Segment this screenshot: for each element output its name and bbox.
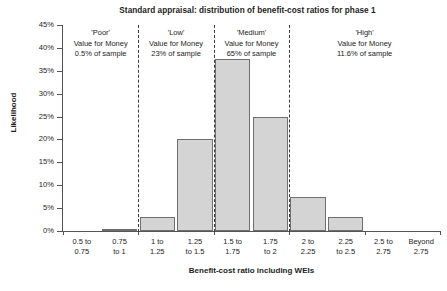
bar [328,217,363,231]
region-annotation-line: Value for Money [63,39,138,50]
y-axis-tick-label: 45% [39,20,54,29]
region-annotation-line: Value for Money [138,39,213,50]
y-axis-tick: 35% [57,71,62,72]
region-annotation-line: 'Low' [138,28,213,39]
bar [290,197,325,231]
x-axis-label-line: 1.25 [138,247,176,257]
x-axis-tick [440,231,441,235]
y-axis-tick-label: 25% [39,112,54,121]
x-axis-label-line: 0.5 to [63,237,101,247]
y-axis-title: Likelihood [9,78,18,148]
y-axis-tick: 30% [57,94,62,95]
y-axis-tick-label: 35% [39,66,54,75]
y-axis-tick: 5% [57,208,62,209]
region-annotation-line: 23% of sample [138,49,213,60]
bar [177,139,212,231]
y-axis-tick: 10% [57,185,62,186]
x-axis-label: Beyond2.75 [402,237,440,258]
y-axis-tick-label: 0% [43,226,54,235]
x-axis-label-line: 2.75 [402,247,440,257]
x-axis-label-line: 1.5 to [214,237,252,247]
bar-chart: Standard appraisal: distribution of bene… [0,0,447,291]
y-axis-tick-label: 10% [39,180,54,189]
x-axis-label: 2 to2.25 [289,237,327,258]
region-annotation-medium: 'Medium'Value for Money65% of sample [214,28,289,60]
region-annotation-line: Value for Money [214,39,289,50]
x-axis-label-line: 0.75 [63,247,101,257]
x-axis-label: 2.5 to2.75 [365,237,403,258]
x-axis-label-line: 2.25 [289,247,327,257]
bar [215,59,250,231]
region-annotation-line: Value for Money [289,39,440,50]
x-axis-label-line: 1 to [138,237,176,247]
x-axis-tick [365,231,366,235]
bar [102,229,137,231]
bar [140,217,175,231]
x-axis-label-line: Beyond [402,237,440,247]
y-axis-tick: 15% [57,162,62,163]
region-annotation-line: 0.5% of sample [63,49,138,60]
x-axis-label-line: 0.75 [101,237,139,247]
x-axis-line [62,231,440,232]
x-axis-label-line: to 2.5 [327,247,365,257]
x-axis-label-line: 2.5 to [365,237,403,247]
region-annotation-poor: 'Poor'Value for Money0.5% of sample [63,28,138,60]
x-axis-label-line: to 2 [252,247,290,257]
x-axis-label: 1.25to 1.5 [176,237,214,258]
x-axis-label-line: 1.75 [214,247,252,257]
x-axis-label: 1.5 to1.75 [214,237,252,258]
y-axis-tick-label: 15% [39,157,54,166]
y-axis-tick-label: 40% [39,43,54,52]
region-annotation-high: 'High'Value for Money11.6% of sample [289,28,440,60]
x-axis-tick [63,231,64,235]
bar [403,230,438,231]
region-annotation-line: 'Medium' [214,28,289,39]
x-axis-label: 2.25to 2.5 [327,237,365,258]
region-annotation-line: 11.6% of sample [289,49,440,60]
y-axis-tick-label: 30% [39,89,54,98]
bar [64,230,99,231]
region-annotation-line: 'Poor' [63,28,138,39]
chart-title: Standard appraisal: distribution of bene… [55,6,440,15]
x-axis-label: 0.75to 1 [101,237,139,258]
x-axis-label: 1.75to 2 [252,237,290,258]
region-annotation-line: 'High' [289,28,440,39]
y-axis-tick: 25% [57,117,62,118]
x-axis-label-line: 2.25 [327,237,365,247]
bar [253,117,288,231]
x-axis-label-line: 1.75 [252,237,290,247]
y-axis-tick: 40% [57,48,62,49]
region-annotation-line: 65% of sample [214,49,289,60]
y-axis-tick: 20% [57,139,62,140]
x-axis-label-line: 2.75 [365,247,403,257]
y-axis-tick: 0% [57,231,62,232]
y-axis-tick-label: 20% [39,134,54,143]
x-axis-title: Benefit-cost ratio including WEIs [63,266,440,275]
x-axis-label-line: to 1.5 [176,247,214,257]
x-axis-label-line: to 1 [101,247,139,257]
y-axis-tick: 45% [57,25,62,26]
x-axis-label-line: 1.25 [176,237,214,247]
region-annotation-low: 'Low'Value for Money23% of sample [138,28,213,60]
x-axis-label: 1 to1.25 [138,237,176,258]
x-axis-label-line: 2 to [289,237,327,247]
x-axis-label: 0.5 to0.75 [63,237,101,258]
y-axis-tick-label: 5% [43,203,54,212]
bar [366,230,401,231]
